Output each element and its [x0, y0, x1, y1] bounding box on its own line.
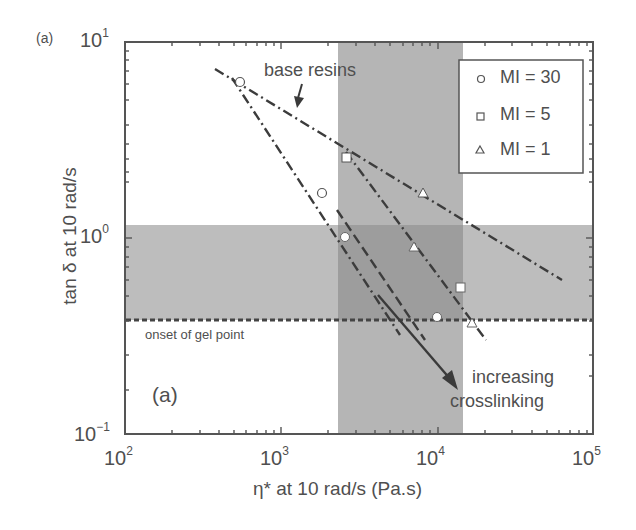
marker-mi30	[341, 233, 350, 242]
gel-point-label: onset of gel point	[145, 327, 244, 342]
base-resins-arrow-shaft	[298, 84, 302, 98]
marker-mi30	[433, 313, 442, 322]
legend-label-mi1: MI = 1	[500, 139, 551, 160]
base-resins-arrow-head	[294, 96, 304, 108]
legend-circle-icon	[478, 76, 485, 83]
marker-mi5	[456, 283, 465, 292]
inner-panel-label: (a)	[152, 383, 178, 407]
marker-mi30	[318, 189, 327, 198]
marker-mi5	[342, 153, 351, 162]
increasing-label: increasing	[472, 367, 554, 388]
marker-mi30	[236, 78, 245, 87]
base-resins-label: base resins	[264, 60, 356, 81]
legend-label-mi5: MI = 5	[500, 104, 551, 125]
crosslinking-label: crosslinking	[450, 391, 544, 412]
legend-square-icon	[477, 113, 484, 120]
legend-label-mi30: MI = 30	[500, 67, 561, 88]
